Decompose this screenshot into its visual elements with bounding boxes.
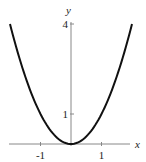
x-tick-label: -1 <box>36 149 45 161</box>
y-tick-label: 4 <box>63 18 69 30</box>
y-tick-label: 1 <box>63 108 69 120</box>
y-axis-label: y <box>65 4 71 16</box>
x-tick-label: 1 <box>99 149 105 161</box>
parabola-chart: -1114 x y <box>0 0 146 162</box>
x-axis-label: x <box>134 138 140 150</box>
